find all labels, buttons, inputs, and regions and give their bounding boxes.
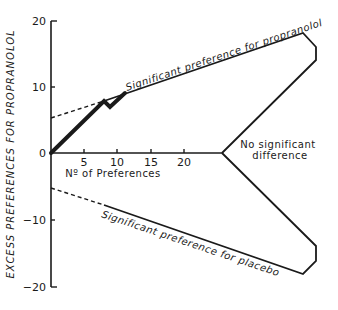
sequential-analysis-chart: 20 10 0 −10 −20 EXCESS PREFERENCES FOR P… [0,0,338,310]
x-tick-label-20: 20 [177,156,191,169]
y-tick-label-m20: −20 [23,281,46,294]
annotation-no-difference-line2: difference [252,150,307,161]
observed-preference-path [51,93,125,153]
upper-boundary [104,33,316,153]
y-tick-label-20: 20 [32,15,46,28]
x-axis-label: Nº of Preferences [65,168,161,179]
annotation-placebo: Significant preference for placebo [100,208,281,278]
y-tick-label-0: 0 [39,147,46,160]
y-tick-label-m10: −10 [23,214,46,227]
y-axis-label: EXCESS PREFERENCES FOR PROPRANOLOL [5,29,16,278]
y-tick-label-10: 10 [32,81,46,94]
annotation-no-difference-line1: No significant [240,139,315,150]
lower-boundary-dashed [51,188,104,205]
